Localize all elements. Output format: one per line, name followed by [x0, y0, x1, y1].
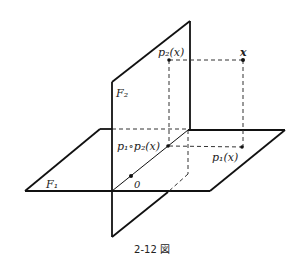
label-origin: 0 [134, 179, 141, 190]
f2-hidden-edges [168, 130, 188, 192]
point-p1x [240, 145, 244, 149]
projection-diagram: p₂(x) x F₂ p₁∘p₂(x) p₁(x) F₁ 0 2-12 図 [0, 0, 305, 264]
label-f2: F₂ [115, 87, 128, 100]
projection-lines [169, 60, 243, 147]
plane-f1 [25, 129, 285, 191]
point-p1p2x [166, 144, 170, 148]
label-f1: F₁ [45, 178, 58, 191]
point-origin [129, 174, 133, 178]
label-x: x [239, 46, 247, 59]
label-p1x: p₁(x) [212, 151, 238, 164]
label-p1p2x: p₁∘p₂(x) [117, 140, 160, 153]
figure-caption: 2-12 図 [134, 244, 170, 255]
label-p2x: p₂(x) [158, 46, 184, 59]
